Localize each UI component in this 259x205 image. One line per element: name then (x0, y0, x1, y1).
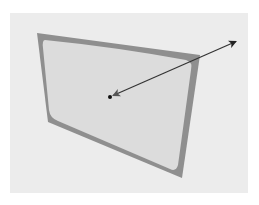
surface-vector-diagram (0, 0, 259, 205)
center-point (108, 95, 112, 99)
